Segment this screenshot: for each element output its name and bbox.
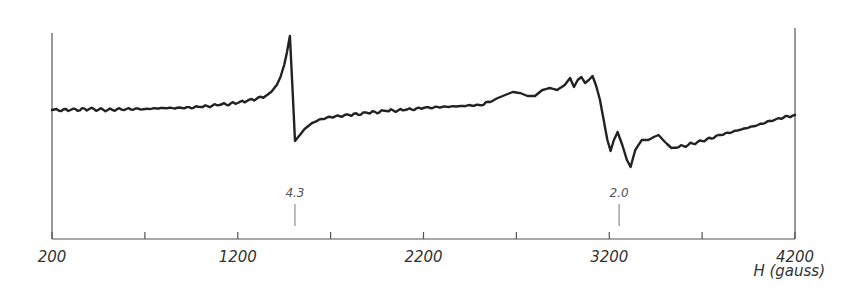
x-axis-title: H (gauss) bbox=[753, 262, 825, 280]
x-tick-label-200: 200 bbox=[38, 248, 67, 266]
g-marker-label-2.0: 2.0 bbox=[610, 186, 629, 200]
g-value-markers: 4.32.0 bbox=[285, 186, 629, 226]
g-marker-label-4.3: 4.3 bbox=[285, 186, 304, 200]
spectrum-trace bbox=[52, 36, 795, 167]
epr-spectrum-chart: 2001200220032004200 4.32.0 H (gauss) bbox=[0, 0, 844, 294]
axes bbox=[52, 28, 795, 239]
x-tick-label-1200: 1200 bbox=[219, 248, 257, 266]
x-tick-label-3200: 3200 bbox=[590, 248, 628, 266]
x-tick-labels: 2001200220032004200 bbox=[38, 248, 814, 266]
x-ticks bbox=[52, 232, 795, 239]
x-tick-label-2200: 2200 bbox=[404, 248, 442, 266]
